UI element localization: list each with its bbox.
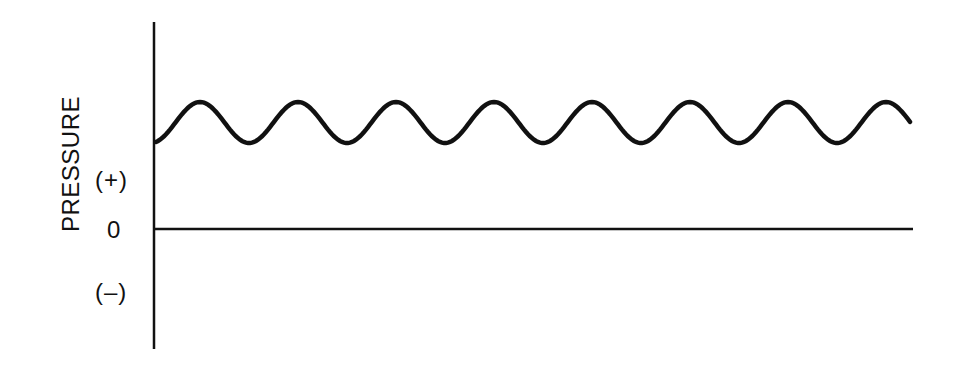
y-axis-title: PRESSURE — [57, 96, 85, 232]
pressure-wave — [156, 102, 910, 143]
tick-label-negative: (–) — [95, 278, 127, 306]
tick-label-positive: (+) — [95, 166, 128, 194]
pressure-diagram — [0, 0, 960, 369]
tick-label-zero: 0 — [107, 216, 121, 244]
